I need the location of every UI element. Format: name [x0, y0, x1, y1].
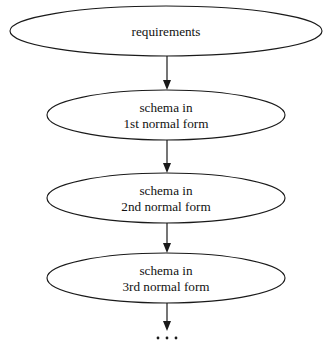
connector-3nf-to-continuation	[163, 303, 171, 331]
connector-requirements-to-1nf	[163, 56, 171, 90]
node-third-normal-form[interactable]: schema in 3rd normal form	[47, 253, 285, 303]
connector-1nf-to-2nf	[163, 140, 171, 173]
arrowhead-icon	[163, 163, 171, 173]
connector-2nf-to-3nf	[163, 223, 171, 253]
arrowhead-icon	[163, 321, 171, 331]
ellipsis-dot-1	[157, 337, 160, 340]
arrowhead-icon	[163, 80, 171, 90]
node-requirements[interactable]: requirements	[10, 6, 322, 56]
continuation-ellipsis	[157, 337, 178, 340]
ellipsis-dot-2	[166, 337, 169, 340]
node-third-normal-form-label-line-1: schema in	[139, 263, 193, 278]
node-second-normal-form-label-line-1: schema in	[139, 183, 193, 198]
node-first-normal-form-label-line-2: 1st normal form	[124, 116, 210, 131]
node-second-normal-form[interactable]: schema in 2nd normal form	[47, 173, 285, 223]
flowchart-canvas: requirements schema in 1st normal form s…	[0, 0, 330, 345]
node-third-normal-form-label-line-2: 3rd normal form	[122, 279, 210, 294]
node-first-normal-form-label-line-1: schema in	[139, 100, 193, 115]
ellipsis-dot-3	[175, 337, 178, 340]
normalization-flowchart: requirements schema in 1st normal form s…	[0, 0, 330, 345]
node-first-normal-form[interactable]: schema in 1st normal form	[47, 90, 285, 140]
arrowhead-icon	[163, 243, 171, 253]
node-first-normal-form-shape	[47, 90, 285, 140]
node-second-normal-form-label-line-2: 2nd normal form	[121, 199, 211, 214]
node-third-normal-form-shape	[47, 253, 285, 303]
node-requirements-label-line-1: requirements	[132, 24, 201, 39]
node-second-normal-form-shape	[47, 173, 285, 223]
